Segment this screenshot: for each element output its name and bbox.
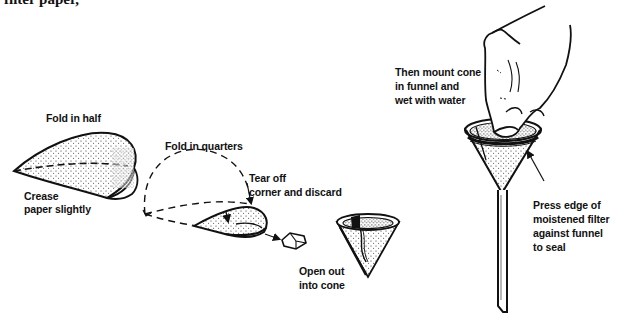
discarded-corner-drawing — [265, 233, 306, 249]
label-in-funnel-and: in funnel and — [395, 80, 459, 93]
label-open-out: Open out — [299, 265, 344, 278]
step-cone-drawing — [337, 214, 399, 277]
label-tear-off: Tear off — [249, 172, 286, 185]
step-funnel-hand-drawing — [465, 6, 571, 312]
label-against-funnel: against funnel — [533, 227, 603, 240]
label-to-seal: to seal — [533, 241, 566, 254]
filter-paper-folding-diagram: filter paper, — [0, 0, 626, 320]
label-into-cone: into cone — [299, 279, 345, 292]
label-paper-slightly: paper slightly — [24, 203, 91, 216]
label-then-mount-cone: Then mount cone — [395, 66, 481, 79]
label-press-edge-of: Press edge of — [533, 199, 601, 212]
label-crease: Crease — [24, 190, 58, 203]
label-fold-in-half: Fold in half — [46, 112, 101, 125]
label-corner-and-discard: corner and discard — [249, 186, 342, 199]
label-moistened-filter: moistened filter — [533, 213, 610, 226]
label-fold-in-quarters: Fold in quarters — [165, 140, 243, 153]
label-wet-with-water: wet with water — [395, 94, 465, 107]
